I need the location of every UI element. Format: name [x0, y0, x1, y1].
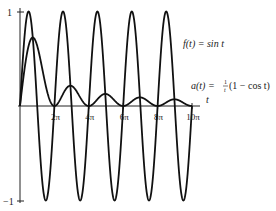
- axes: [17, 8, 200, 203]
- a-annotation-frac-num: 1: [224, 79, 227, 85]
- x-tick-label: 10π: [186, 112, 200, 122]
- a-annotation: a(t) = 1 t (1 − cos t): [191, 79, 270, 93]
- a-annotation-prefix: a(t) =: [191, 80, 215, 92]
- x-tick-label: 6π: [120, 112, 130, 122]
- x-tick-label: 4π: [85, 112, 95, 122]
- t-axis-label: t: [206, 94, 209, 105]
- x-tick-label: 8π: [154, 112, 164, 122]
- y-label-top: 1: [7, 7, 12, 18]
- chart-canvas: 2π4π6π8π10π 1 −1 t f(t) = sin t a(t) = 1…: [0, 0, 276, 211]
- f-annotation: f(t) = sin t: [183, 38, 224, 50]
- x-tick-label: 2π: [51, 112, 61, 122]
- a-annotation-frac-den: t: [224, 87, 226, 93]
- a-annotation-suffix: (1 − cos t): [229, 80, 270, 92]
- y-label-bottom: −1: [3, 196, 14, 207]
